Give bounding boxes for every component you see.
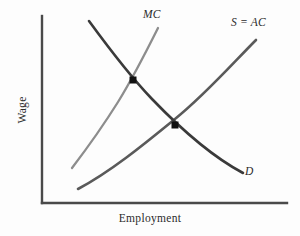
curve-label-s-ac: S = AC xyxy=(231,16,266,28)
plot-area xyxy=(0,0,300,236)
y-axis-title: Wage xyxy=(16,88,28,132)
monopsony-equilibrium-marker xyxy=(130,77,137,84)
competitive-equilibrium-marker xyxy=(172,122,179,129)
curve-label-mc: MC xyxy=(143,8,161,20)
x-axis-title: Employment xyxy=(0,212,300,224)
curve-label-d: D xyxy=(245,165,254,177)
curve-d xyxy=(89,21,243,173)
economics-diagram-figure: MC S = AC D Employment Wage xyxy=(0,0,300,236)
curve-mc xyxy=(72,28,158,168)
